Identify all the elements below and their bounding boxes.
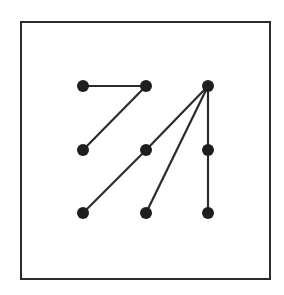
graph-node: [77, 144, 89, 156]
graph-edge: [146, 86, 208, 150]
graph-diagram: [0, 0, 284, 295]
graph-node: [202, 80, 214, 92]
graph-node: [202, 207, 214, 219]
graph-node: [140, 144, 152, 156]
graph-edge: [83, 150, 146, 213]
graph-node: [77, 80, 89, 92]
graph-edge: [83, 86, 146, 150]
graph-edge: [146, 86, 208, 213]
graph-node: [77, 207, 89, 219]
graph-node: [140, 207, 152, 219]
graph-node: [140, 80, 152, 92]
graph-node: [202, 144, 214, 156]
